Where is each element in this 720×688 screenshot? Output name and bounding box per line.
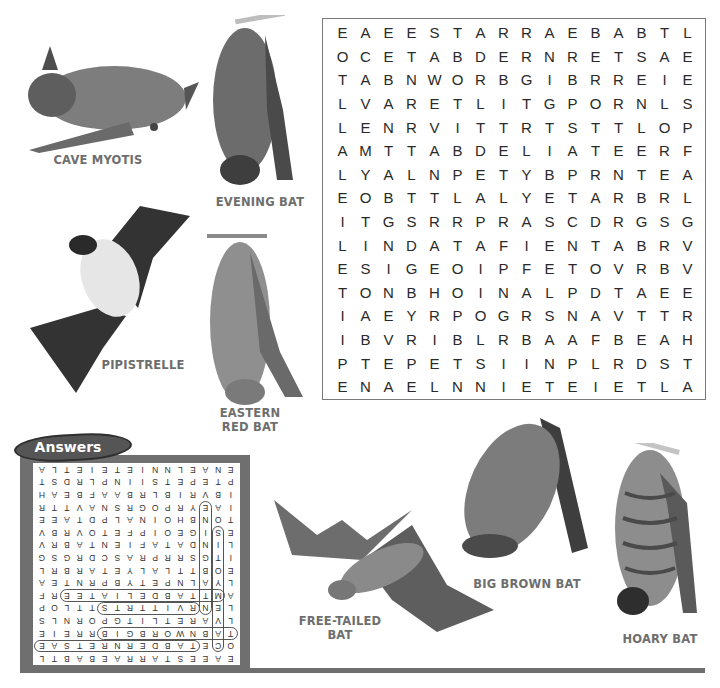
grid-cell[interactable]: R — [400, 119, 423, 136]
grid-cell[interactable]: G — [515, 71, 538, 88]
grid-cell[interactable]: F — [584, 331, 607, 348]
grid-cell[interactable]: L — [584, 355, 607, 372]
grid-cell[interactable]: G — [676, 213, 699, 230]
grid-cell[interactable]: B — [446, 142, 469, 159]
grid-cell[interactable]: G — [538, 95, 561, 112]
grid-cell[interactable]: R — [653, 237, 676, 254]
grid-cell[interactable]: S — [354, 260, 377, 277]
grid-cell[interactable]: L — [331, 237, 354, 254]
grid-cell[interactable]: T — [400, 142, 423, 159]
grid-cell[interactable]: T — [676, 355, 699, 372]
grid-cell[interactable]: I — [492, 95, 515, 112]
grid-cell[interactable]: M — [354, 142, 377, 159]
grid-cell[interactable]: E — [676, 71, 699, 88]
grid-cell[interactable]: O — [354, 189, 377, 206]
grid-cell[interactable]: F — [492, 237, 515, 254]
grid-cell[interactable]: R — [607, 71, 630, 88]
grid-cell[interactable]: R — [515, 48, 538, 65]
grid-cell[interactable]: A — [584, 307, 607, 324]
grid-cell[interactable]: E — [377, 48, 400, 65]
grid-cell[interactable]: I — [354, 237, 377, 254]
grid-cell[interactable]: E — [400, 378, 423, 395]
grid-cell[interactable]: A — [423, 142, 446, 159]
grid-cell[interactable]: I — [492, 355, 515, 372]
grid-cell[interactable]: T — [538, 119, 561, 136]
grid-cell[interactable]: D — [400, 237, 423, 254]
grid-cell[interactable]: E — [676, 284, 699, 301]
grid-cell[interactable]: O — [584, 260, 607, 277]
grid-cell[interactable]: S — [423, 24, 446, 41]
grid-cell[interactable]: L — [653, 95, 676, 112]
grid-cell[interactable]: G — [400, 260, 423, 277]
grid-cell[interactable]: O — [469, 307, 492, 324]
grid-cell[interactable]: T — [630, 307, 653, 324]
grid-cell[interactable]: E — [423, 260, 446, 277]
grid-cell[interactable]: V — [676, 260, 699, 277]
grid-cell[interactable]: V — [423, 119, 446, 136]
grid-cell[interactable]: E — [469, 166, 492, 183]
grid-cell[interactable]: F — [676, 142, 699, 159]
grid-cell[interactable]: I — [538, 142, 561, 159]
grid-cell[interactable]: O — [446, 284, 469, 301]
grid-cell[interactable]: E — [561, 378, 584, 395]
grid-cell[interactable]: F — [515, 260, 538, 277]
grid-cell[interactable]: R — [607, 189, 630, 206]
grid-cell[interactable]: I — [653, 71, 676, 88]
grid-cell[interactable]: D — [469, 142, 492, 159]
grid-cell[interactable]: P — [561, 355, 584, 372]
grid-cell[interactable]: N — [538, 48, 561, 65]
grid-cell[interactable]: E — [423, 355, 446, 372]
grid-cell[interactable]: E — [331, 378, 354, 395]
grid-cell[interactable]: B — [515, 331, 538, 348]
grid-cell[interactable]: A — [538, 24, 561, 41]
grid-cell[interactable]: L — [331, 166, 354, 183]
grid-cell[interactable]: D — [630, 355, 653, 372]
grid-cell[interactable]: T — [561, 189, 584, 206]
grid-cell[interactable]: A — [469, 24, 492, 41]
grid-cell[interactable]: B — [561, 71, 584, 88]
grid-cell[interactable]: O — [331, 48, 354, 65]
grid-cell[interactable]: A — [584, 189, 607, 206]
grid-cell[interactable]: T — [515, 95, 538, 112]
grid-cell[interactable]: I — [331, 331, 354, 348]
grid-cell[interactable]: A — [653, 48, 676, 65]
grid-cell[interactable]: A — [515, 284, 538, 301]
grid-cell[interactable]: V — [607, 307, 630, 324]
grid-cell[interactable]: E — [653, 284, 676, 301]
grid-cell[interactable]: A — [423, 237, 446, 254]
grid-cell[interactable]: Y — [515, 166, 538, 183]
grid-cell[interactable]: D — [584, 213, 607, 230]
grid-cell[interactable]: T — [469, 119, 492, 136]
grid-cell[interactable]: E — [331, 24, 354, 41]
grid-cell[interactable]: L — [423, 378, 446, 395]
grid-cell[interactable]: B — [630, 24, 653, 41]
grid-cell[interactable]: I — [331, 307, 354, 324]
grid-cell[interactable]: L — [331, 95, 354, 112]
grid-cell[interactable]: N — [354, 378, 377, 395]
grid-cell[interactable]: E — [676, 48, 699, 65]
grid-cell[interactable]: V — [676, 237, 699, 254]
grid-cell[interactable]: A — [354, 24, 377, 41]
grid-cell[interactable]: B — [653, 260, 676, 277]
grid-cell[interactable]: R — [492, 24, 515, 41]
grid-cell[interactable]: N — [377, 237, 400, 254]
grid-cell[interactable]: B — [377, 189, 400, 206]
grid-cell[interactable]: R — [607, 355, 630, 372]
grid-cell[interactable]: G — [630, 213, 653, 230]
grid-cell[interactable]: R — [607, 95, 630, 112]
grid-cell[interactable]: A — [653, 331, 676, 348]
grid-cell[interactable]: E — [377, 307, 400, 324]
grid-cell[interactable]: R — [653, 189, 676, 206]
grid-cell[interactable]: R — [400, 331, 423, 348]
grid-cell[interactable]: A — [354, 71, 377, 88]
grid-cell[interactable]: P — [400, 355, 423, 372]
grid-cell[interactable]: R — [515, 119, 538, 136]
grid-cell[interactable]: R — [515, 307, 538, 324]
grid-cell[interactable]: I — [377, 260, 400, 277]
grid-cell[interactable]: T — [354, 213, 377, 230]
word-search-grid[interactable]: EAEESTARRAEBABTLOCETABDERNRETSAETABNWORB… — [322, 18, 706, 400]
grid-cell[interactable]: N — [423, 166, 446, 183]
grid-cell[interactable]: S — [469, 355, 492, 372]
grid-cell[interactable]: B — [538, 166, 561, 183]
grid-cell[interactable]: P — [492, 260, 515, 277]
